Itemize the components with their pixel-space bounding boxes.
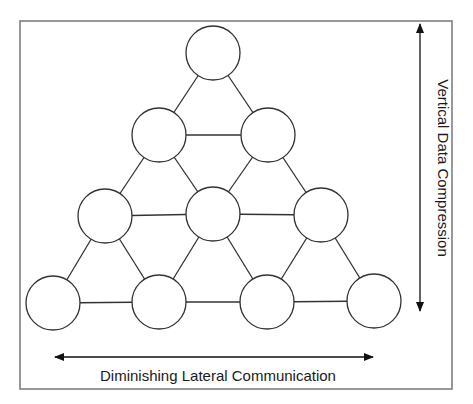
node-level3 <box>294 188 348 242</box>
node-level4 <box>347 274 401 328</box>
node-level1 <box>186 26 240 80</box>
node-level4 <box>240 275 294 329</box>
node-level3 <box>186 187 240 241</box>
horizontal-axis-label: Diminishing Lateral Communication <box>100 367 336 384</box>
pyramid-diagram: Vertical Data Compression Diminishing La… <box>0 0 473 404</box>
node-level2 <box>132 108 186 162</box>
node-level3 <box>78 189 132 243</box>
connections <box>53 53 374 303</box>
node-level2 <box>241 108 295 162</box>
nodes <box>26 26 401 330</box>
node-level4 <box>132 275 186 329</box>
vertical-axis-label: Vertical Data Compression <box>435 79 452 257</box>
node-level4 <box>26 276 80 330</box>
